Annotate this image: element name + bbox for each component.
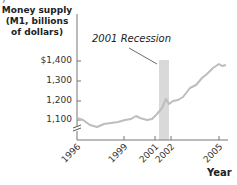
y-tick-1400: $1,400 xyxy=(41,55,73,65)
money-supply-line xyxy=(77,64,226,127)
annotation-leader-line xyxy=(129,48,157,64)
x-axis-title: Year xyxy=(207,167,232,178)
y-tick-1300: 1,300 xyxy=(46,75,72,85)
y-tick-1100: 1,100 xyxy=(46,114,72,124)
recession-annotation: 2001 Recession xyxy=(92,33,171,44)
y-tick-1200: 1,200 xyxy=(46,95,72,105)
